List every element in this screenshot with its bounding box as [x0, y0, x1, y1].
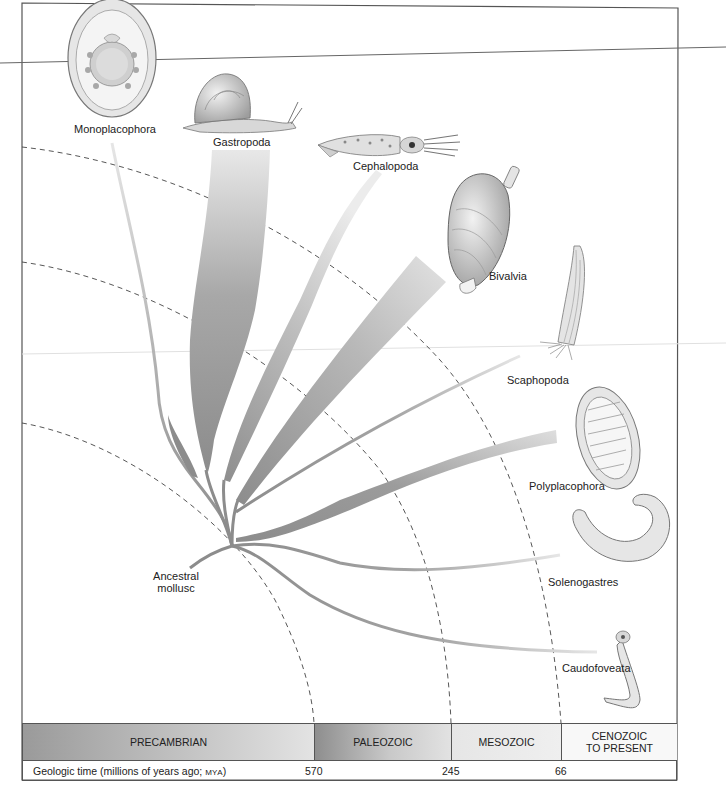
boundary-245-mya: 245	[442, 765, 460, 777]
era-paleozoic: PALEOZOIC	[315, 724, 452, 760]
ancestral-mollusc-label: Ancestral mollusc	[142, 570, 210, 594]
solenogaster-worm-icon	[573, 494, 670, 561]
tusk-shell-icon	[540, 246, 585, 360]
taxon-label-polyplacophora: Polyplacophora	[529, 480, 605, 492]
taxon-label-solenogastres: Solenogastres	[548, 576, 618, 588]
squid-icon	[318, 135, 460, 157]
snail-icon	[183, 74, 302, 133]
taxon-label-gastropoda: Gastropoda	[213, 136, 270, 148]
branch-caudofoveata	[232, 546, 597, 652]
era-precambrian: PRECAMBRIAN	[23, 724, 315, 760]
branch-solenogastres	[232, 544, 560, 569]
taxon-label-caudofoveata: Caudofoveata	[562, 662, 631, 674]
boundary-66-mya: 66	[555, 765, 567, 777]
branch-gastropoda	[190, 150, 270, 472]
monoplacophoran-shell-icon	[68, 0, 156, 117]
geologic-time-band: PRECAMBRIAN PALEOZOIC MESOZOIC CENOZOIC …	[22, 723, 677, 781]
taxon-label-scaphopoda: Scaphopoda	[507, 374, 569, 386]
time-axis-label: Geologic time (millions of years ago; MY…	[33, 765, 226, 777]
ancestral-mollusc-label-line2: mollusc	[142, 582, 210, 594]
ancestral-mollusc-label-line1: Ancestral	[142, 570, 210, 582]
geologic-time-axis: Geologic time (millions of years ago; MY…	[23, 760, 676, 781]
era-mesozoic: MESOZOIC	[452, 724, 562, 760]
branch-stem	[190, 546, 232, 568]
chiton-icon	[566, 380, 651, 496]
era-cenozoic: CENOZOIC TO PRESENT	[562, 724, 677, 760]
taxon-label-bivalvia: Bivalvia	[489, 270, 527, 282]
mollusc-phylogeny-figure: Monoplacophora Gastropoda Cephalopoda Bi…	[0, 0, 726, 790]
boundary-570-mya: 570	[305, 765, 323, 777]
taxon-label-monoplacophora: Monoplacophora	[74, 123, 156, 135]
taxon-label-cephalopoda: Cephalopoda	[353, 160, 418, 172]
